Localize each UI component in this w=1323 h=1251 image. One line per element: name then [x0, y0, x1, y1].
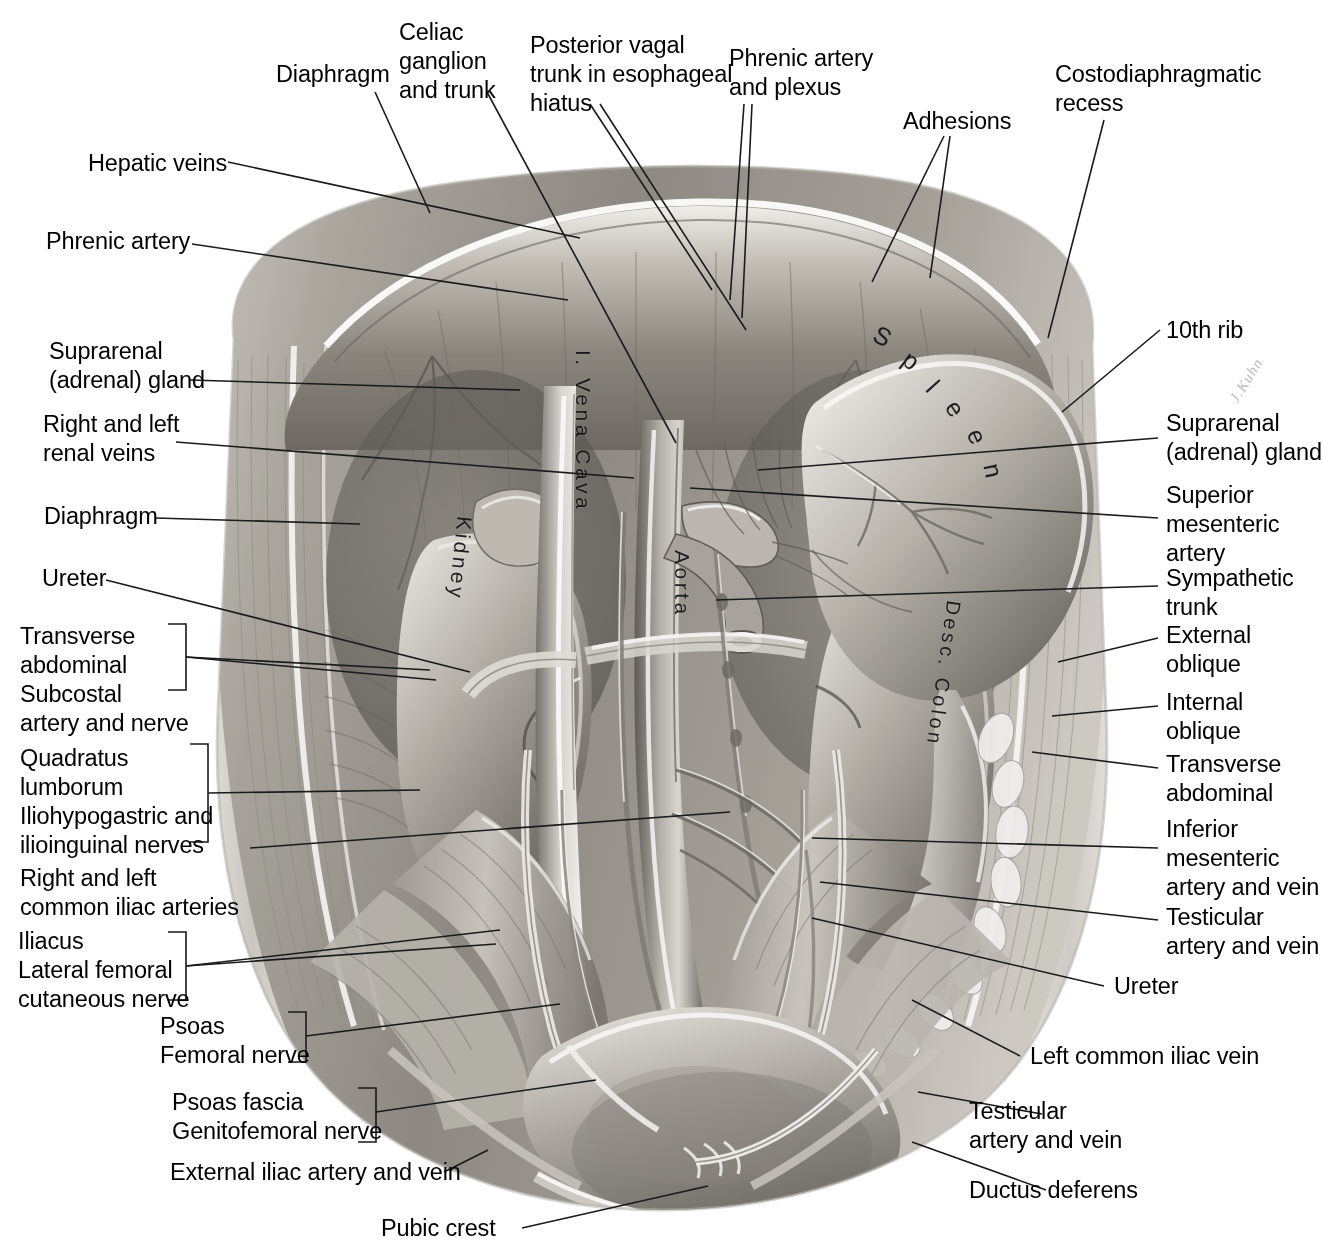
label-tenth-rib: 10th rib: [1166, 316, 1243, 345]
label-hepatic-veins: Hepatic veins: [88, 149, 227, 178]
label-posterior-vagal-trunk: Posterior vagal trunk in esophageal hiat…: [530, 31, 732, 118]
spleen-letter: p: [897, 345, 926, 376]
label-superior-mesenteric-artery: Superior mesenteric artery: [1166, 481, 1279, 568]
label-suprarenal-gland-right: Suprarenal (adrenal) gland: [1166, 409, 1322, 467]
label-psoas-fascia-genitofemoral: Psoas fascia Genitofemoral nerve: [172, 1088, 382, 1146]
label-ductus-deferens: Ductus deferens: [969, 1176, 1138, 1205]
label-testicular-artery-vein-upper: Testicular artery and vein: [1166, 903, 1319, 961]
label-left-common-iliac-vein: Left common iliac vein: [1030, 1042, 1259, 1071]
in-art-label-aorta: Aorta: [670, 550, 694, 618]
spleen-letter: n: [977, 461, 1008, 481]
label-diaphragm-top: Diaphragm: [276, 60, 390, 89]
label-common-iliac-arteries: Right and left common iliac arteries: [20, 864, 239, 922]
label-external-iliac-artery-vein: External iliac artery and vein: [170, 1158, 461, 1187]
label-quadratus-lumborum: Quadratus lumborum Iliohypogastric and i…: [20, 744, 213, 860]
anatomy-plate: I. Vena Cava Aorta Kidney Desc. Colon S …: [0, 0, 1323, 1251]
label-adhesions: Adhesions: [903, 107, 1011, 136]
label-external-oblique: External oblique: [1166, 621, 1251, 679]
label-pubic-crest: Pubic crest: [381, 1214, 496, 1243]
label-ureter-right: Ureter: [1114, 972, 1178, 1001]
spleen-letter: l: [920, 375, 945, 399]
label-suprarenal-gland-left: Suprarenal (adrenal) gland: [49, 337, 205, 395]
label-psoas-femoral-nerve: Psoas Femoral nerve: [160, 1012, 310, 1070]
label-phrenic-artery: Phrenic artery: [46, 227, 190, 256]
label-internal-oblique: Internal oblique: [1166, 688, 1243, 746]
spleen-letter: e: [939, 395, 971, 423]
spleen-letter: e: [961, 424, 993, 448]
in-art-label-spleen: S p l e e n: [866, 310, 1106, 510]
artist-signature: J.Kuhn: [1226, 355, 1266, 405]
anatomical-illustration: I. Vena Cava Aorta Kidney Desc. Colon S …: [176, 150, 1144, 1225]
label-celiac-ganglion: Celiac ganglion and trunk: [399, 18, 496, 105]
label-inferior-mesenteric: Inferior mesenteric artery and vein: [1166, 815, 1319, 902]
label-testicular-artery-vein-lower: Testicular artery and vein: [969, 1097, 1122, 1155]
label-phrenic-artery-plexus: Phrenic artery and plexus: [729, 44, 873, 102]
label-ureter-left: Ureter: [42, 564, 106, 593]
label-sympathetic-trunk: Sympathetic trunk: [1166, 564, 1294, 622]
label-costodiaphragmatic-recess: Costodiaphragmatic recess: [1055, 60, 1261, 118]
spleen-letter: S: [868, 320, 896, 353]
label-transverse-abdominal-right: Transverse abdominal: [1166, 750, 1281, 808]
in-art-label-vena-cava: I. Vena Cava: [571, 350, 595, 512]
label-renal-veins: Right and left renal veins: [43, 410, 179, 468]
label-transverse-abdominal-subcostal: Transverse abdominal Subcostal artery an…: [20, 622, 189, 738]
label-diaphragm-left: Diaphragm: [44, 502, 158, 531]
label-iliacus-lateral-femoral: Iliacus Lateral femoral cutaneous nerve: [18, 927, 190, 1014]
